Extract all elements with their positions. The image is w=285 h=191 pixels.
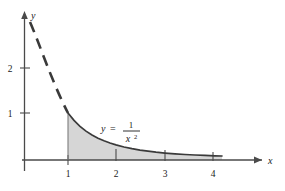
equation-numerator: 1: [129, 120, 134, 130]
x-axis-label: x: [267, 155, 273, 166]
shaded-area-under-curve: [68, 113, 222, 160]
equation-operator: =: [110, 123, 116, 134]
x-tick-label-2: 2: [114, 169, 119, 179]
x-tick-label-1: 1: [66, 169, 71, 179]
y-axis-arrowhead: [21, 11, 28, 19]
graph-canvas: y x 2 1 1 2 3 4 y = 1 x 2: [0, 0, 285, 191]
x-tick-label-4: 4: [211, 169, 216, 179]
curve-dashed-segment: [30, 22, 68, 113]
y-tick-label-1: 1: [8, 109, 13, 119]
y-tick-label-2: 2: [8, 64, 13, 74]
figure-container: y x 2 1 1 2 3 4 y = 1 x 2: [0, 0, 285, 191]
equation-lhs: y: [100, 123, 106, 134]
equation-denominator-base: x: [125, 133, 131, 144]
y-axis-label: y: [30, 10, 36, 21]
function-equation-label: y = 1 x 2: [100, 120, 140, 144]
x-axis-arrowhead: [254, 157, 262, 164]
equation-denominator-exponent: 2: [134, 133, 137, 140]
x-tick-label-3: 3: [163, 169, 168, 179]
